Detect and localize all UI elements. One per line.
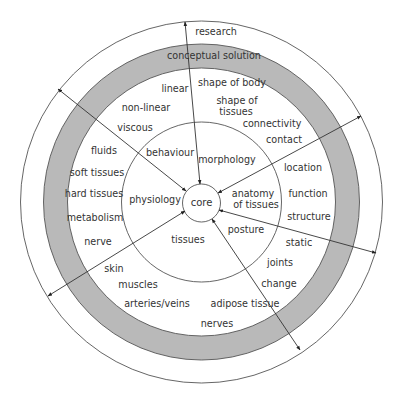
outer-label-soft-tissues: soft tissues (70, 167, 124, 178)
outer-label-adipose-tissue: adipose tissue (211, 298, 280, 309)
inner-label-tissues: tissues (171, 234, 204, 245)
outer-label-shape-of: shape of (216, 95, 258, 106)
outer-label-tissues: tissues (219, 106, 252, 117)
inner-label-morphology: morphology (198, 154, 256, 165)
conceptual-solution-label: conceptual solution (167, 50, 261, 61)
inner-label-posture: posture (228, 224, 265, 235)
sector-physiology: physiologyhard tissuesmetabolismnerve (65, 188, 181, 247)
outer-label-connectivity: connectivity (243, 118, 302, 129)
research-label: research (195, 26, 237, 37)
core-label: core (191, 197, 213, 208)
outer-label-muscles: muscles (118, 279, 157, 290)
outer-label-viscous: viscous (117, 122, 153, 133)
outer-label-joints: joints (266, 257, 293, 268)
outer-label-shape-of-body: shape of body (198, 77, 266, 88)
outer-label-location: location (284, 162, 322, 173)
outer-label-structure: structure (287, 211, 331, 222)
outer-label-function: function (288, 188, 327, 199)
outer-label-linear: linear (161, 83, 188, 94)
outer-label-static: static (286, 237, 312, 248)
outer-label-nerves: nerves (201, 318, 234, 329)
inner-label-behaviour: behaviour (146, 147, 194, 158)
outer-label-arteries-veins: arteries/veins (124, 298, 190, 309)
outer-label-contact: contact (266, 134, 302, 145)
inner-label-physiology: physiology (129, 194, 181, 205)
framework-diagram: research conceptual solution core morpho… (0, 0, 399, 394)
labels: research conceptual solution core (167, 26, 261, 208)
inner-label-of-tissues: of tissues (233, 199, 279, 210)
inner-label-anatomy: anatomy (232, 188, 275, 199)
outer-label-skin: skin (104, 263, 123, 274)
outer-label-metabolism: metabolism (67, 212, 124, 223)
outer-label-change: change (261, 278, 296, 289)
outer-label-hard-tissues: hard tissues (65, 188, 123, 199)
outer-label-non-linear: non-linear (122, 102, 171, 113)
outer-label-fluids: fluids (91, 145, 117, 156)
outer-label-nerve: nerve (84, 236, 112, 247)
